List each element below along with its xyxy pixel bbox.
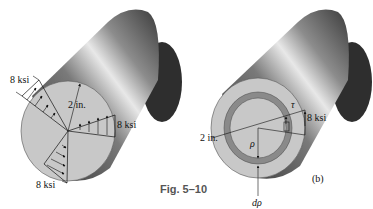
left-stress-label-lower: 8 ksi — [36, 179, 55, 190]
d-rho-label: dρ — [252, 197, 262, 208]
right-radius-label: 2 in. — [200, 132, 218, 143]
right-stress-label: 8 ksi — [307, 112, 326, 123]
left-radius-label: 2 in. — [68, 99, 86, 110]
left-shaft-figure: 8 ksi 2 in. 8 ksi 8 ksi — [10, 10, 182, 190]
tau-label: τ — [291, 99, 295, 110]
left-stress-label-upper: 8 ksi — [10, 74, 29, 85]
figure-canvas: 8 ksi 2 in. 8 ksi 8 ksi 2 in. τ 8 ksi ρ … — [0, 0, 373, 209]
right-shaft-figure: 2 in. τ 8 ksi ρ dρ (b) — [200, 10, 372, 208]
figure-caption: Fig. 5–10 — [160, 183, 207, 195]
part-b-label: (b) — [312, 173, 324, 185]
left-stress-label-right: 8 ksi — [117, 119, 136, 130]
rho-label: ρ — [249, 138, 255, 149]
